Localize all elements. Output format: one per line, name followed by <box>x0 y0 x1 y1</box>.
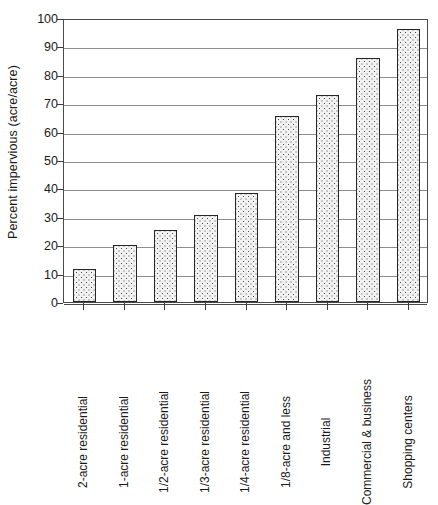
y-tick-label: 80 <box>26 70 58 83</box>
y-tick-mark <box>57 47 63 48</box>
y-tick-mark <box>57 76 63 77</box>
y-tick-label: 70 <box>26 98 58 111</box>
x-axis-tick-labels: 2-acre residential1-acre residential1/2-… <box>0 303 438 449</box>
x-tick-mark <box>124 303 125 310</box>
y-tick-label: 40 <box>26 183 58 196</box>
y-axis-title-text: Percent impervious (acre/acre) <box>6 65 20 239</box>
bars-layer <box>64 20 427 302</box>
y-tick-mark <box>57 133 63 134</box>
x-tick-label: Shopping centers <box>340 313 438 449</box>
x-tick-mark <box>367 303 368 310</box>
bar <box>194 215 218 302</box>
y-tick-mark <box>57 218 63 219</box>
x-tick-mark <box>164 303 165 310</box>
x-tick-mark <box>286 303 287 310</box>
y-tick-label: 20 <box>26 240 58 253</box>
y-tick-mark <box>57 161 63 162</box>
bar <box>73 269 97 302</box>
y-tick-mark <box>57 189 63 190</box>
y-tick-mark <box>57 19 63 20</box>
x-tick-mark <box>83 303 84 310</box>
bar <box>397 29 421 302</box>
bar <box>316 95 340 302</box>
bar <box>113 245 137 302</box>
y-tick-label: 90 <box>26 41 58 54</box>
x-tick-mark <box>408 303 409 310</box>
x-tick-label-text: Shopping centers <box>401 395 415 488</box>
bar <box>154 230 178 302</box>
y-tick-mark <box>57 275 63 276</box>
bar <box>356 58 380 302</box>
y-tick-mark <box>57 303 63 304</box>
y-tick-label: 30 <box>26 212 58 225</box>
y-tick-label: 50 <box>26 155 58 168</box>
y-tick-mark <box>57 246 63 247</box>
x-tick-mark <box>246 303 247 310</box>
y-tick-label: 60 <box>26 126 58 139</box>
plot-area <box>63 19 428 303</box>
bar <box>275 116 299 302</box>
y-tick-mark <box>57 104 63 105</box>
y-tick-label: 10 <box>26 268 58 281</box>
x-tick-mark <box>205 303 206 310</box>
x-tick-mark <box>327 303 328 310</box>
y-axis-title: Percent impervious (acre/acre) <box>0 0 26 303</box>
bar <box>235 193 259 302</box>
y-tick-label: 100 <box>26 13 58 26</box>
